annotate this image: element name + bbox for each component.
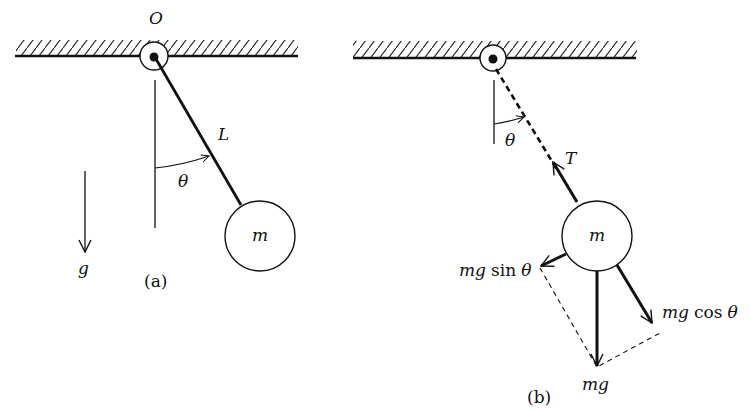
pendulum-figure: O L θ m g (a) θ [0,0,750,411]
force-mg-sin-label: mgsinθ [459,260,531,280]
pivot-label-o: O [149,8,163,28]
angle-label-theta-a: θ [178,171,188,191]
length-label-l: L [217,124,229,144]
pendulum-string-dashed-b [496,69,556,168]
tension-arrow [553,162,577,202]
force-mg-cos-label: mgcosθ [662,302,738,322]
mass-label-b: m [589,225,605,245]
gravity-label-g: g [78,258,89,278]
pivot-b [480,45,506,71]
panel-b: θ T m mgsinθ mg mgcosθ (b) [353,41,738,407]
angle-arc-b [494,117,524,124]
panel-a: O L θ m g (a) [15,8,298,291]
tension-label-t: T [565,148,578,168]
force-decomposition-dashed [540,268,660,367]
angle-arc-a [155,156,209,168]
pivot-a [140,42,168,70]
angle-label-theta-b: θ [505,130,515,150]
force-mg-label: mg [582,374,609,394]
force-mg-cos-arrow [617,265,652,323]
mass-label-a: m [252,225,268,245]
force-mg-sin-arrow [541,254,566,266]
caption-b: (b) [527,387,551,407]
caption-a: (a) [144,271,167,291]
